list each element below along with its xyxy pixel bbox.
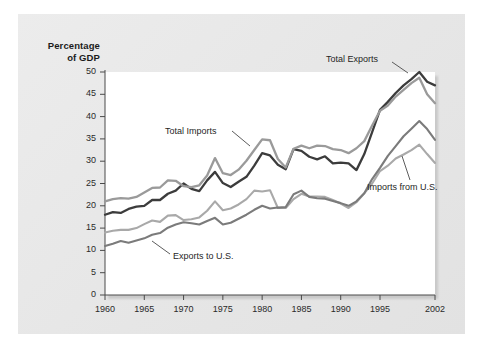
- x-tick-label: 1985: [281, 304, 321, 314]
- chart-figure: Percentage of GDP 0510152025303540455019…: [0, 0, 481, 348]
- x-tick-label: 1975: [203, 304, 243, 314]
- x-tick-label: 1965: [124, 304, 164, 314]
- y-tick-label: 30: [65, 155, 96, 165]
- x-tick-label: 1960: [85, 304, 125, 314]
- x-tick-label: 1995: [360, 304, 400, 314]
- annotation-leaders: [152, 62, 410, 254]
- leader-line-total-exports: [392, 62, 408, 73]
- series-label-total-exports: Total Exports: [326, 54, 378, 64]
- series-layer: [105, 72, 435, 246]
- x-tick-label: 1990: [321, 304, 361, 314]
- series-label-imports-from-u-s: Imports from U.S.: [367, 182, 438, 192]
- leader-line-exports-to-u-s: [152, 241, 170, 254]
- x-tick-label: 1970: [164, 304, 204, 314]
- series-label-total-imports: Total Imports: [165, 126, 217, 136]
- y-tick-label: 20: [65, 200, 96, 210]
- y-tick-label: 0: [65, 289, 96, 299]
- y-tick-label: 25: [65, 178, 96, 188]
- x-tick-label: 1980: [242, 304, 282, 314]
- y-tick-label: 5: [65, 267, 96, 277]
- y-tick-label: 15: [65, 222, 96, 232]
- y-tick-label: 45: [65, 88, 96, 98]
- y-tick-label: 10: [65, 244, 96, 254]
- y-tick-label: 50: [65, 66, 96, 76]
- series-line-total-exports: [105, 72, 435, 215]
- y-tick-label: 40: [65, 111, 96, 121]
- x-tick-label: 2002: [415, 304, 455, 314]
- y-tick-label: 35: [65, 133, 96, 143]
- leader-line-total-imports: [232, 131, 250, 146]
- series-label-exports-to-u-s: Exports to U.S.: [173, 251, 234, 261]
- leader-line-imports-from-u-s: [402, 156, 410, 180]
